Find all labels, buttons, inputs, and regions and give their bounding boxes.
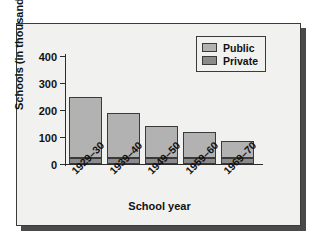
legend-label-private: Private: [223, 55, 258, 67]
chart-panel: Schools (in thousands) 0 100 200 300 400: [16, 23, 301, 226]
legend-item-public[interactable]: Public: [202, 41, 258, 54]
legend-item-private[interactable]: Private: [202, 54, 258, 67]
y-axis-title: Schools (in thousands): [13, 0, 25, 110]
y-tick-label-0: 0: [51, 159, 57, 171]
legend-swatch-public-icon: [202, 43, 217, 52]
legend-swatch-private-icon: [202, 56, 217, 65]
y-tick-0: 0: [60, 164, 66, 165]
y-tick-label-300: 300: [39, 78, 57, 90]
y-tick-label-100: 100: [39, 132, 57, 144]
legend-label-public: Public: [223, 42, 255, 54]
y-tick-label-400: 400: [39, 51, 57, 63]
figure-root: Schools (in thousands) 0 100 200 300 400: [0, 0, 318, 249]
x-axis-title: School year: [17, 200, 302, 212]
y-tick-label-200: 200: [39, 105, 57, 117]
chart-legend: Public Private: [196, 36, 266, 72]
